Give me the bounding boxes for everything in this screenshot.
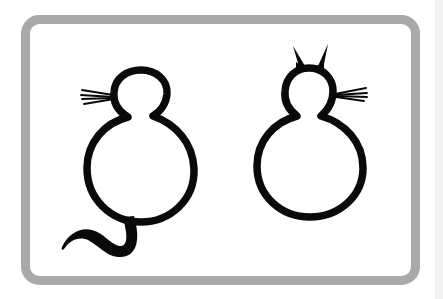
illustration (0, 0, 443, 299)
